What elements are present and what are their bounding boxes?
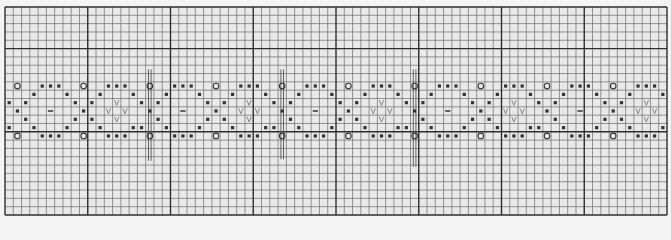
square-symbol — [479, 109, 482, 112]
square-symbol — [355, 118, 358, 121]
square-symbol — [173, 134, 176, 137]
square-symbol — [388, 84, 391, 87]
square-symbol — [206, 101, 209, 104]
square-symbol — [339, 118, 342, 121]
square-symbol — [156, 118, 159, 121]
square-symbol — [636, 84, 639, 87]
square-symbol — [90, 118, 93, 121]
square-symbol — [289, 101, 292, 104]
square-symbol — [430, 126, 433, 129]
square-symbol — [198, 126, 201, 129]
square-symbol — [595, 93, 598, 96]
square-symbol — [65, 126, 68, 129]
square-symbol — [645, 134, 648, 137]
square-symbol — [156, 101, 159, 104]
square-symbol — [562, 93, 565, 96]
square-symbol — [140, 101, 143, 104]
square-symbol — [487, 118, 490, 121]
square-symbol — [570, 84, 573, 87]
square-symbol — [90, 101, 93, 104]
square-symbol — [537, 126, 540, 129]
square-symbol — [99, 93, 102, 96]
square-symbol — [214, 109, 217, 112]
square-symbol — [496, 93, 499, 96]
square-symbol — [446, 134, 449, 137]
square-symbol — [396, 93, 399, 96]
square-symbol — [322, 134, 325, 137]
square-symbol — [74, 101, 77, 104]
square-symbol — [388, 134, 391, 137]
square-symbol — [272, 101, 275, 104]
square-symbol — [562, 126, 565, 129]
square-symbol — [123, 84, 126, 87]
square-symbol — [322, 84, 325, 87]
square-symbol — [190, 84, 193, 87]
square-symbol — [297, 126, 300, 129]
square-symbol — [396, 126, 399, 129]
square-symbol — [330, 93, 333, 96]
square-symbol — [413, 109, 416, 112]
square-symbol — [496, 126, 499, 129]
square-symbol — [587, 84, 590, 87]
square-symbol — [487, 101, 490, 104]
square-symbol — [545, 109, 548, 112]
square-symbol — [471, 118, 474, 121]
square-symbol — [115, 134, 118, 137]
square-symbol — [628, 93, 631, 96]
square-symbol — [612, 109, 615, 112]
square-symbol — [115, 84, 118, 87]
square-symbol — [463, 126, 466, 129]
square-symbol — [620, 101, 623, 104]
square-symbol — [223, 118, 226, 121]
square-symbol — [231, 126, 234, 129]
square-symbol — [107, 84, 110, 87]
square-symbol — [256, 134, 259, 137]
square-symbol — [272, 126, 275, 129]
square-symbol — [454, 134, 457, 137]
square-symbol — [41, 84, 44, 87]
square-symbol — [181, 134, 184, 137]
square-symbol — [16, 109, 19, 112]
square-symbol — [24, 118, 27, 121]
square-symbol — [554, 118, 557, 121]
square-symbol — [148, 109, 151, 112]
square-symbol — [380, 84, 383, 87]
square-symbol — [628, 126, 631, 129]
square-symbol — [339, 101, 342, 104]
square-symbol — [49, 134, 52, 137]
square-symbol — [305, 84, 308, 87]
square-symbol — [521, 84, 524, 87]
square-symbol — [579, 134, 582, 137]
square-symbol — [454, 84, 457, 87]
square-symbol — [603, 118, 606, 121]
square-symbol — [421, 118, 424, 121]
square-symbol — [74, 118, 77, 121]
square-symbol — [405, 101, 408, 104]
square-symbol — [123, 134, 126, 137]
square-symbol — [107, 134, 110, 137]
square-symbol — [297, 93, 300, 96]
square-symbol — [446, 84, 449, 87]
square-symbol — [165, 126, 168, 129]
square-symbol — [463, 93, 466, 96]
square-symbol — [587, 134, 590, 137]
square-symbol — [661, 93, 664, 96]
square-symbol — [65, 93, 68, 96]
square-symbol — [223, 101, 226, 104]
square-symbol — [363, 126, 366, 129]
square-symbol — [579, 84, 582, 87]
square-symbol — [405, 126, 408, 129]
square-symbol — [8, 126, 11, 129]
square-symbol — [330, 126, 333, 129]
square-symbol — [512, 134, 515, 137]
square-symbol — [372, 84, 375, 87]
square-symbol — [314, 84, 317, 87]
square-symbol — [49, 84, 52, 87]
square-symbol — [363, 93, 366, 96]
square-symbol — [264, 93, 267, 96]
square-symbol — [41, 134, 44, 137]
square-symbol — [57, 134, 60, 137]
square-symbol — [636, 134, 639, 137]
square-symbol — [57, 84, 60, 87]
square-symbol — [305, 134, 308, 137]
